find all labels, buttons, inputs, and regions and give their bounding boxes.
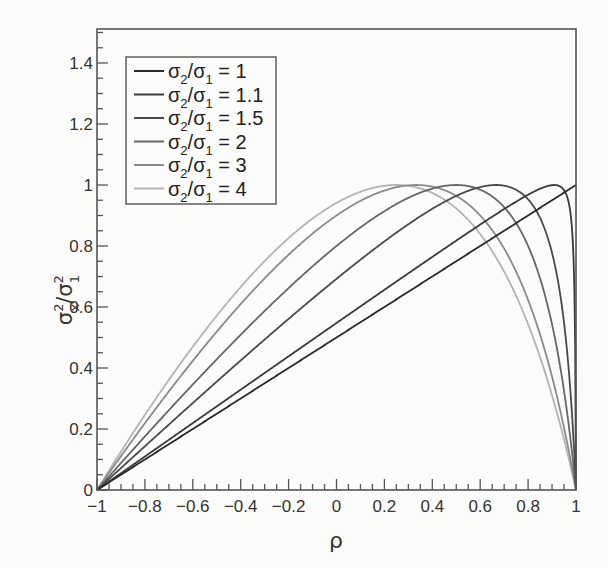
x-tick-label: −0.8 [128,497,162,516]
y-tick-label: 1.4 [69,54,93,73]
x-tick-label: −0.4 [224,497,258,516]
x-tick-label: −0.2 [272,497,306,516]
x-tick-label: 0.6 [468,497,492,516]
y-tick-label: 1 [84,176,93,195]
x-tick-label: −0.6 [176,497,210,516]
legend: σ2/σ1 = 1σ2/σ1 = 1.1σ2/σ1 = 1.5σ2/σ1 = 2… [126,57,276,205]
x-tick-label: 0 [332,497,341,516]
y-tick-label: 0.2 [69,420,93,439]
curve-group [97,185,576,490]
y-tick-label: 1.2 [69,115,93,134]
line-chart: −1−0.8−0.6−0.4−0.200.20.40.60.8100.20.40… [0,0,608,567]
x-axis-label: ρ [329,528,343,553]
y-tick-label: 0.8 [69,237,93,256]
x-tick-label: 1 [571,497,580,516]
x-tick-label: 0.2 [373,497,397,516]
x-tick-label: 0.4 [420,497,444,516]
y-tick-label: 0.4 [69,359,93,378]
y-tick-label: 0 [84,481,93,500]
x-tick-label: 0.8 [516,497,540,516]
series-curve [97,185,576,490]
